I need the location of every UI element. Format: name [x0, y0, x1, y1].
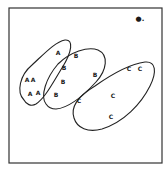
- point-c: C: [138, 65, 143, 72]
- point-b: B: [62, 64, 67, 71]
- point-b: B: [93, 71, 98, 78]
- point-b: B: [74, 52, 79, 59]
- point-a: A: [31, 76, 36, 83]
- point-a: A: [56, 49, 61, 56]
- point-a: A: [25, 76, 30, 83]
- cluster-a-points: A A A A A: [25, 49, 61, 97]
- point-a: A: [28, 90, 33, 97]
- point-c: C: [77, 97, 82, 104]
- cluster-b-points: B B B B B: [54, 52, 98, 98]
- point-c: C: [109, 113, 114, 120]
- corner-marker: ●.: [136, 15, 145, 23]
- point-c: C: [127, 65, 132, 72]
- cluster-diagram: ●. A A A A A B B B B B C C C C C: [0, 0, 166, 171]
- point-b: B: [54, 91, 59, 98]
- point-a: A: [36, 89, 41, 96]
- plot-frame: [9, 8, 162, 163]
- point-b: B: [61, 78, 66, 85]
- point-c: C: [111, 92, 116, 99]
